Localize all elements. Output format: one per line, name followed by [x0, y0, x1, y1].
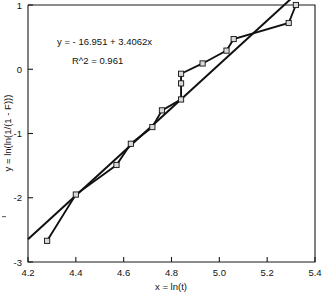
x-tick-label: 4.2	[21, 267, 34, 278]
y-tick-label: 1	[17, 0, 22, 11]
y-axis-tick-labels: 10-1-2-3	[14, 0, 22, 268]
x-tick-label: 4.4	[69, 267, 82, 278]
regression-equation-label: y = - 16.951 + 3.4062x	[57, 36, 152, 47]
data-point-marker	[178, 81, 183, 86]
plot-svg: 4.24.44.64.85.05.25.4 10-1-2-3 y = - 16.…	[0, 0, 334, 300]
x-tick-label: 4.6	[117, 267, 130, 278]
data-point-marker	[293, 2, 298, 7]
x-axis-ticks	[28, 257, 315, 262]
r-squared-label: R^2 = 0.961	[72, 55, 123, 66]
data-point-marker	[150, 124, 155, 129]
data-point-marker	[231, 36, 236, 41]
y-tick-label: -3	[14, 257, 22, 268]
x-tick-label: 5.2	[261, 267, 274, 278]
data-point-marker	[45, 238, 50, 243]
x-tick-label: 5.0	[213, 267, 226, 278]
data-point-marker	[128, 141, 133, 146]
data-point-marker	[73, 192, 78, 197]
data-point-marker	[178, 71, 183, 76]
y-axis-ticks	[28, 5, 33, 262]
data-point-marker	[224, 48, 229, 53]
x-tick-label: 5.4	[308, 267, 321, 278]
x-axis-title: x = ln(t)	[155, 281, 187, 292]
y-axis-title: y = ln(ln(1/(1 - F)))	[2, 95, 13, 172]
data-point-marker	[200, 61, 205, 66]
data-point-marker	[178, 97, 183, 102]
x-axis-tick-labels: 4.24.44.64.85.05.25.4	[21, 267, 321, 278]
scan-artifact-mark	[2, 216, 6, 217]
data-point-marker	[159, 108, 164, 113]
x-tick-label: 4.8	[165, 267, 178, 278]
weibull-probability-plot: 4.24.44.64.85.05.25.4 10-1-2-3 y = - 16.…	[0, 0, 334, 300]
data-point-marker	[114, 162, 119, 167]
y-tick-label: 0	[17, 64, 22, 75]
y-tick-label: -1	[14, 128, 22, 139]
y-tick-label: -2	[14, 192, 22, 203]
data-point-marker	[286, 20, 291, 25]
